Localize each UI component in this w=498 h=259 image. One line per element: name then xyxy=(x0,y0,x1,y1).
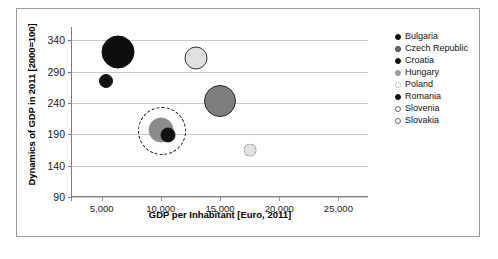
legend-item-bulgaria[interactable]: Bulgaria xyxy=(395,31,475,43)
figure-caption xyxy=(16,246,482,259)
legend-label: Romania xyxy=(405,91,441,103)
x-axis-tick xyxy=(279,197,280,201)
chart-frame: Dynamics of GDP in 2011 [2000=100] 90140… xyxy=(16,8,480,237)
x-axis-tick xyxy=(161,197,162,201)
x-axis-title: GDP per Inhabitant [Euro, 2011] xyxy=(72,209,368,220)
legend-marker-icon xyxy=(395,94,401,100)
legend-item-slovenia[interactable]: Slovenia xyxy=(395,103,475,115)
legend-marker-icon xyxy=(395,106,401,112)
legend-item-poland[interactable]: Poland xyxy=(395,79,475,91)
gridline xyxy=(72,134,368,135)
legend-item-hungary[interactable]: Hungary xyxy=(395,67,475,79)
legend-label: Slovakia xyxy=(405,115,439,127)
figure: Dynamics of GDP in 2011 [2000=100] 90140… xyxy=(0,0,498,259)
y-axis-tick-label: 140 xyxy=(47,160,65,172)
bubble-slovenia xyxy=(243,144,256,157)
legend-marker-icon xyxy=(395,82,401,88)
legend-label: Czech Republic xyxy=(405,43,468,55)
legend-label: Croatia xyxy=(405,55,434,67)
y-axis-tick xyxy=(68,134,72,135)
bubble-slovakia xyxy=(184,46,207,69)
y-axis-tick xyxy=(68,197,72,198)
legend-item-czech-republic[interactable]: Czech Republic xyxy=(395,43,475,55)
bubble-czech-republic xyxy=(204,85,236,117)
y-axis-tick-label: 240 xyxy=(47,97,65,109)
gridline xyxy=(72,166,368,167)
plot-area: 90140190240290340 5,00010,00015,00020,00… xyxy=(72,31,368,197)
y-axis-tick xyxy=(68,166,72,167)
legend: BulgariaCzech RepublicCroatiaHungaryPola… xyxy=(395,31,475,127)
bubble-croatia xyxy=(160,127,175,142)
gridline xyxy=(72,72,368,73)
legend-label: Poland xyxy=(405,79,433,91)
y-axis-tick xyxy=(68,103,72,104)
legend-marker-icon xyxy=(395,70,401,76)
y-axis-title-text: Dynamics of GDP in 2011 [2000=100] xyxy=(27,23,38,185)
legend-item-slovakia[interactable]: Slovakia xyxy=(395,115,475,127)
y-axis-tick xyxy=(68,72,72,73)
legend-item-romania[interactable]: Romania xyxy=(395,91,475,103)
legend-label: Bulgaria xyxy=(405,31,438,43)
y-axis-tick-label: 340 xyxy=(47,34,65,46)
bubble-romania xyxy=(101,35,134,68)
legend-marker-icon xyxy=(395,46,401,52)
x-axis-tick xyxy=(220,197,221,201)
y-axis-tick-label: 290 xyxy=(47,66,65,78)
legend-item-croatia[interactable]: Croatia xyxy=(395,55,475,67)
legend-label: Slovenia xyxy=(405,103,440,115)
y-axis-tick-label: 90 xyxy=(53,191,65,203)
x-axis-tick xyxy=(102,197,103,201)
y-axis-line xyxy=(71,27,72,201)
legend-marker-icon xyxy=(395,34,401,40)
legend-marker-icon xyxy=(395,58,401,64)
bubble-bulgaria xyxy=(99,74,113,88)
y-axis-title: Dynamics of GDP in 2011 [2000=100] xyxy=(23,29,41,179)
legend-label: Hungary xyxy=(405,67,439,79)
x-axis-tick xyxy=(338,197,339,201)
y-axis-tick xyxy=(68,40,72,41)
y-axis-tick-label: 190 xyxy=(47,128,65,140)
legend-marker-icon xyxy=(395,118,401,124)
